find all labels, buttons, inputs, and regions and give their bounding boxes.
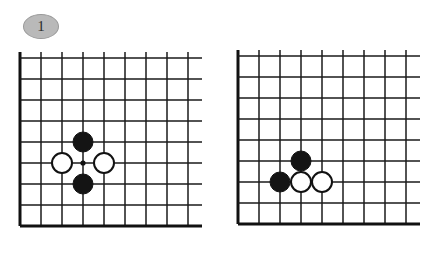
figure-2: 2: [218, 0, 436, 254]
go-board-grid: [14, 52, 208, 232]
figure-1: 1: [0, 0, 218, 254]
diagram-page: 1 2: [0, 0, 436, 254]
figure-badge-1: 1: [23, 14, 59, 39]
stone-black[interactable]: [270, 172, 290, 192]
go-board-1: [14, 52, 208, 232]
stone-white[interactable]: [291, 172, 311, 192]
go-board-2: [232, 50, 426, 230]
stone-black[interactable]: [73, 174, 93, 194]
stone-white[interactable]: [94, 153, 114, 173]
stone-white[interactable]: [312, 172, 332, 192]
intersection-mark-dot: [80, 160, 85, 165]
stone-black[interactable]: [73, 132, 93, 152]
stone-white[interactable]: [52, 153, 72, 173]
stone-black[interactable]: [291, 151, 311, 171]
go-board-grid: [232, 50, 426, 230]
